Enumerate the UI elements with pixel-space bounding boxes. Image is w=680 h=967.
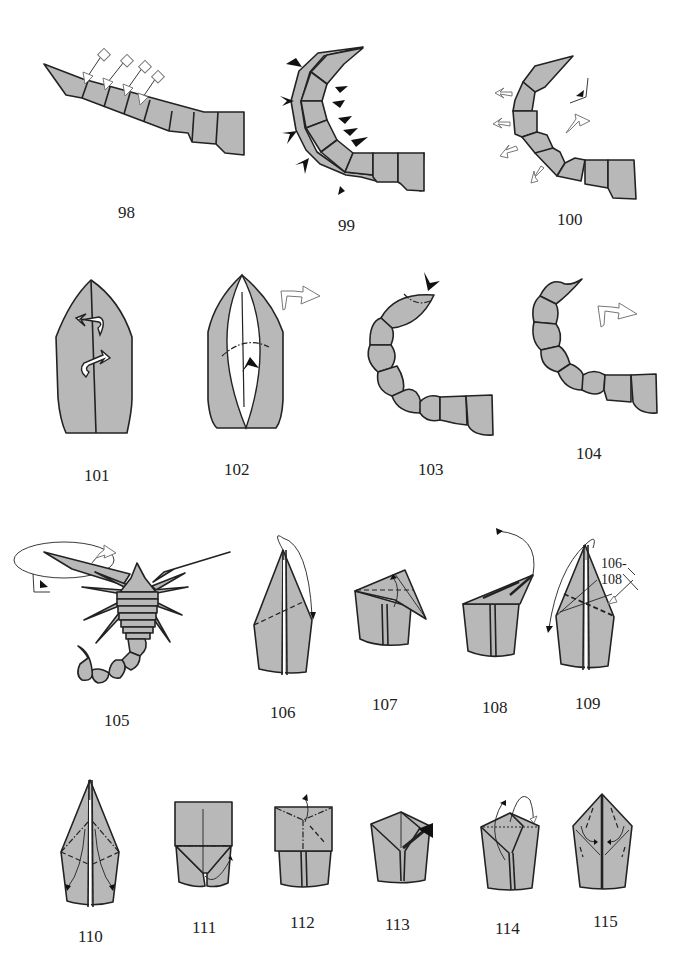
diagram-115 [0,0,680,967]
step-number: 115 [593,912,618,932]
